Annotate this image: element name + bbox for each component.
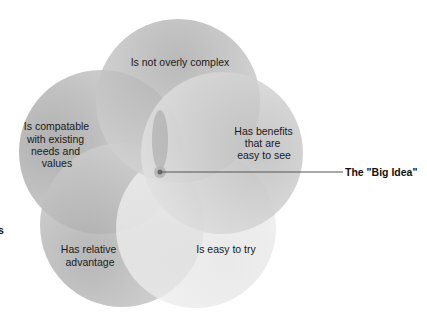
- label-relative-advantage: Has relative advantage: [61, 243, 119, 268]
- big-idea-label: The "Big Idea": [345, 166, 417, 178]
- label-not-complex: Is not overly complex: [131, 56, 230, 68]
- center-dot: [158, 170, 163, 175]
- big-idea-diagram: Is not overly complex Is compatable with…: [0, 0, 427, 320]
- label-easy-to-try: Is easy to try: [196, 243, 256, 255]
- cropped-text-fragment: s: [0, 224, 4, 236]
